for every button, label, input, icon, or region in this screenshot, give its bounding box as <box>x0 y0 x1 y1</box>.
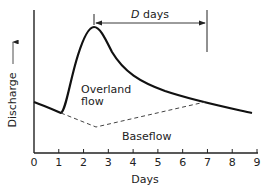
duration-label: D days <box>131 8 169 21</box>
x-tick-label: 7 <box>204 156 211 169</box>
x-tick-label: 3 <box>105 156 112 169</box>
x-axis-label: Days <box>131 173 159 186</box>
x-tick-label: 0 <box>31 156 38 169</box>
x-tick-label: 4 <box>130 156 137 169</box>
baseflow-label: Baseflow <box>122 130 171 143</box>
hydrograph-curve <box>34 27 252 113</box>
hydrograph-diagram: 0123456789 Days Discharge D days Overlan… <box>0 0 265 190</box>
x-tick-label: 1 <box>55 156 62 169</box>
x-tick-label: 6 <box>179 156 186 169</box>
y-axis-label: Discharge <box>6 72 19 127</box>
x-tick-label: 9 <box>254 156 261 169</box>
x-tick-label: 8 <box>229 156 236 169</box>
y-axis-label-group: Discharge <box>6 72 19 127</box>
duration-unit: days <box>140 8 170 21</box>
duration-symbol: D <box>131 8 139 21</box>
x-tick-label: 2 <box>80 156 87 169</box>
x-tick-label: 5 <box>154 156 161 169</box>
x-ticks: 0123456789 <box>31 149 261 169</box>
overland-flow-label-line2: flow <box>81 95 104 108</box>
